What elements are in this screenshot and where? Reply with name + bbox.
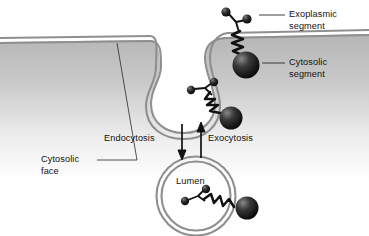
exoplasmic-bead (242, 14, 251, 23)
label-exocytosis: Exocytosis (208, 133, 253, 145)
exoplasmic-bead (187, 86, 195, 94)
diagram-canvas: Exoplasmic segment Cytosolic segment Cyt… (0, 0, 369, 236)
membrane-protein-vesicle (181, 185, 259, 220)
label-exoplasmic-segment: Exoplasmic segment (289, 9, 337, 32)
label-cytosolic-segment: Cytosolic segment (289, 57, 327, 80)
label-endocytosis: Endocytosis (104, 133, 155, 145)
exoplasmic-bead (181, 197, 189, 205)
exoplasmic-bead (221, 7, 230, 16)
diagram-svg (0, 0, 369, 236)
cytosolic-sphere (233, 52, 260, 79)
cytosolic-sphere (220, 107, 243, 130)
label-cytosolic-face: Cytosolic face (41, 154, 79, 177)
cytosolic-sphere (236, 197, 259, 220)
label-lumen: Lumen (176, 176, 205, 188)
exoplasmic-bead (210, 78, 218, 86)
